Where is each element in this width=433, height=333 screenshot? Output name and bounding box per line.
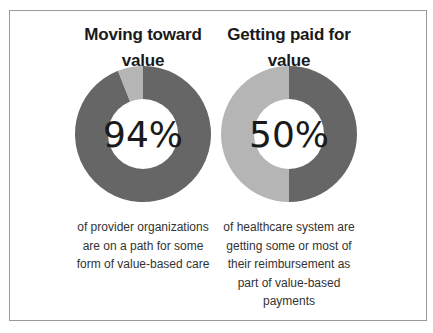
percent-label: 94%: [103, 114, 183, 155]
percent-label: 50%: [249, 114, 329, 155]
panel-caption: of provider organizations are on a path …: [62, 218, 224, 274]
donut-chart-50: 50%: [221, 66, 357, 202]
donut-chart-94: 94%: [75, 66, 211, 202]
panel-caption: of healthcare system are getting some or…: [208, 218, 370, 311]
